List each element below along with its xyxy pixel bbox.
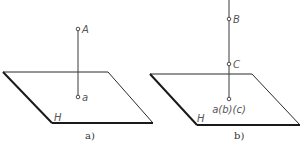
plane-b-left-edge [150, 74, 197, 125]
panel-b: B C a(b)(c) H b) [150, 0, 300, 141]
caption-b: b) [234, 130, 244, 141]
label-a: a [82, 92, 88, 103]
label-B: B [233, 14, 240, 25]
plane-a-left-edge [3, 72, 52, 123]
plane-label-b: H [197, 113, 205, 124]
projection-diagram: A a H a) B C a(b)(c) H b) [0, 0, 303, 151]
label-C: C [233, 59, 240, 70]
point-C [227, 62, 231, 66]
panel-a: A a H a) [3, 24, 153, 141]
point-a [76, 95, 80, 99]
label-abc: a(b)(c) [212, 104, 246, 115]
point-A [76, 27, 80, 31]
caption-a: a) [85, 130, 95, 141]
plane-label-a: H [54, 112, 62, 123]
label-A: A [81, 24, 89, 35]
point-B [227, 17, 231, 21]
point-abc [227, 97, 231, 101]
